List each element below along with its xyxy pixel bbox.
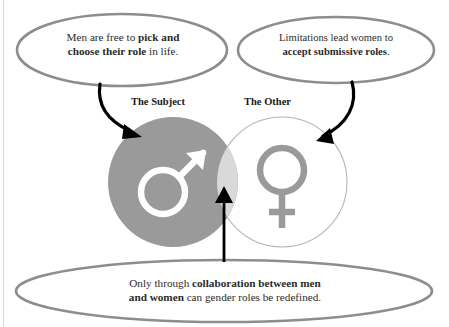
speech-bubble-collaboration-text: Only through collaboration between men a… (60, 276, 390, 305)
label-the-subject: The Subject (131, 96, 185, 107)
collab-line1-plain: Only through (129, 277, 192, 289)
collab-line2-bold: and women (129, 291, 184, 303)
arrow-to-female-circle (323, 82, 354, 136)
men-line2-bold: choose their role (68, 45, 147, 57)
men-line1-plain: Men are free to (67, 31, 138, 43)
arrow-to-male-circle (99, 84, 130, 131)
women-line1-plain: Limitations lead women to (279, 32, 393, 43)
speech-bubble-women-text: Limitations lead women to accept submiss… (245, 31, 427, 58)
diagram-page: The Subject The Other Men are free to pi… (0, 0, 449, 327)
women-line2-bold: accept submissive roles (282, 46, 387, 57)
men-line2-plain: in life. (146, 45, 178, 57)
label-the-other: The Other (244, 96, 291, 107)
men-line1-bold: pick and (138, 31, 179, 43)
women-line2-tail: . (387, 46, 390, 57)
speech-bubble-men-text: Men are free to pick and choose their ro… (30, 30, 216, 59)
collab-line2-plain: can gender roles be redefined. (184, 291, 321, 303)
collab-line1-bold: collaboration between men (192, 277, 321, 289)
